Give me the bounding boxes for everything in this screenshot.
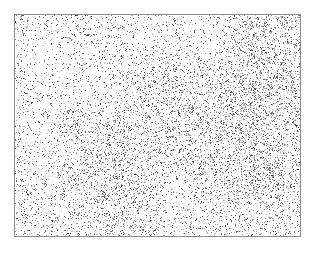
page-canvas xyxy=(0,0,316,253)
texture-plate-frame xyxy=(14,14,301,237)
noise-texture-image xyxy=(15,15,300,236)
plate-caption xyxy=(0,0,1,1)
